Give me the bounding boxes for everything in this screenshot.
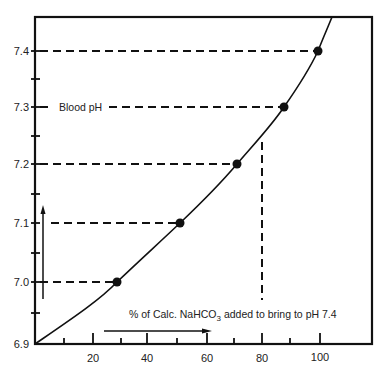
x-ticks <box>64 333 320 344</box>
y-tick-label: 7.0 <box>14 276 29 288</box>
curve-line <box>35 17 332 344</box>
chart: 6.9 7.0 7.1 7.2 7.3 7.4 20 40 60 80 100 … <box>0 0 382 370</box>
data-point <box>280 103 289 112</box>
blood-ph-label: Blood pH <box>59 101 102 113</box>
data-point <box>314 47 323 56</box>
y-tick-label: 7.2 <box>14 158 29 170</box>
x-tick-label: 60 <box>201 352 213 364</box>
y-tick-label: 7.3 <box>14 101 29 113</box>
up-arrow-icon <box>41 205 46 299</box>
y-tick-label: 6.9 <box>14 338 29 350</box>
y-tick-label: 7.1 <box>14 217 29 229</box>
right-arrow-icon <box>104 329 212 334</box>
data-point <box>233 160 242 169</box>
dashed-guides <box>40 51 316 282</box>
data-points <box>113 47 323 287</box>
data-point <box>176 219 185 228</box>
x-tick-label: 20 <box>87 352 99 364</box>
data-point <box>113 278 122 287</box>
x-axis-label: % of Calc. NaHCO3 added to bring to pH 7… <box>129 308 337 323</box>
x-tick-label: 80 <box>256 352 268 364</box>
plot-frame <box>35 17 372 344</box>
x-tick-label: 40 <box>141 352 153 364</box>
y-tick-label: 7.4 <box>14 45 29 57</box>
x-tick-label: 100 <box>311 351 329 363</box>
